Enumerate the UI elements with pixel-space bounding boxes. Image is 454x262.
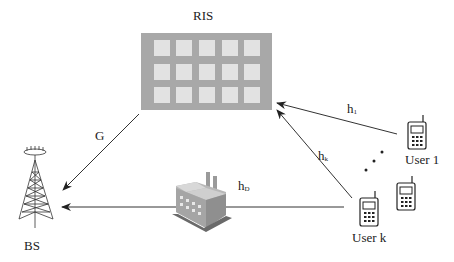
- bs-label: BS: [24, 238, 40, 254]
- link-h1-label: h1: [347, 101, 357, 117]
- link-hk-sub: k: [325, 155, 329, 163]
- ris-panel: [141, 33, 272, 110]
- link-hk-arrow: [277, 110, 352, 198]
- link-G-arrow: [63, 114, 139, 190]
- userk-label: User k: [352, 230, 386, 246]
- users-ellipsis-dots: [365, 151, 384, 172]
- factory-icon: [172, 172, 232, 232]
- userk-phone-icon: [360, 191, 378, 226]
- ris-label: RIS: [193, 8, 213, 24]
- link-hD-sub: D: [245, 185, 250, 193]
- diagram-canvas: [0, 0, 454, 262]
- user-middle-phone-icon: [397, 176, 415, 210]
- link-G-label: G: [95, 128, 104, 144]
- link-hk-label: hk: [318, 148, 328, 164]
- link-h1-arrow: [277, 103, 397, 134]
- link-G-base: G: [95, 128, 104, 143]
- link-hD-label: hD: [238, 178, 250, 194]
- link-h1-sub: 1: [354, 108, 358, 116]
- user1-phone-icon: [408, 115, 426, 149]
- user1-label: User 1: [405, 152, 439, 168]
- bs-tower-icon: [19, 146, 53, 228]
